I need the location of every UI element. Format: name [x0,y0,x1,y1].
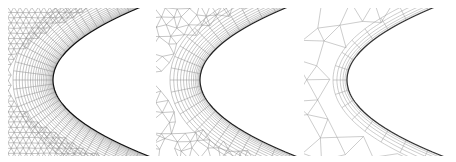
mesh-panel-fine [8,8,152,156]
fine-mesh-image [8,8,152,156]
mesh-panel-medium [156,8,300,156]
medium-mesh-image [156,8,300,156]
coarse-mesh-image [304,8,448,156]
mesh-panel-coarse [304,8,448,156]
